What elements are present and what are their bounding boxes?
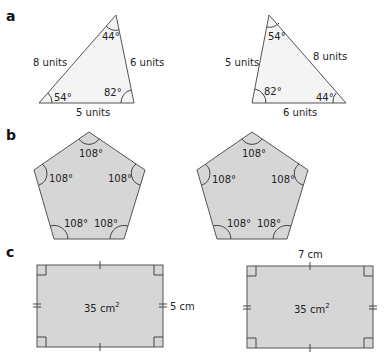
pentagon-left: 108° 108° 108° 108° 108° <box>34 132 145 239</box>
part-c-label: c <box>6 244 14 260</box>
part-b-label: b <box>6 127 16 143</box>
angle-label: 108° <box>212 174 236 185</box>
angle-label: 82° <box>104 87 122 98</box>
side-label: 7 cm <box>298 249 323 260</box>
angle-label: 108° <box>271 174 295 185</box>
angle-label: 54° <box>268 31 286 42</box>
part-a-label: a <box>6 8 15 24</box>
angle-label: 44° <box>316 92 334 103</box>
side-label: 6 units <box>130 57 164 68</box>
angle-label: 108° <box>108 173 132 184</box>
pentagon-right: 108° 108° 108° 108° 108° <box>197 132 308 239</box>
side-label: 5 units <box>76 107 110 118</box>
area-label: 35 cm2 <box>84 301 120 314</box>
angle-label: 108° <box>227 218 251 229</box>
rectangle-right: 35 cm2 7 cm <box>243 249 377 352</box>
rectangle-left: 35 cm2 5 cm <box>33 261 195 351</box>
angle-label: 108° <box>242 148 266 159</box>
angle-label: 82° <box>264 86 282 97</box>
angle-label: 54° <box>54 92 72 103</box>
triangle-left: 44° 54° 82° 8 units 6 units 5 units <box>33 15 164 118</box>
triangle-right: 54° 82° 44° 5 units 8 units 6 units <box>225 15 347 118</box>
side-label: 8 units <box>33 57 67 68</box>
area-label: 35 cm2 <box>294 302 330 315</box>
angle-label: 108° <box>94 218 118 229</box>
side-label: 5 units <box>225 57 259 68</box>
angle-label: 44° <box>102 31 120 42</box>
side-label: 6 units <box>283 107 317 118</box>
angle-label: 108° <box>64 218 88 229</box>
side-label: 5 cm <box>170 301 195 312</box>
side-label: 8 units <box>313 51 347 62</box>
angle-label: 108° <box>49 173 73 184</box>
figure-canvas: a 44° 54° 82° 8 units 6 units 5 units 54… <box>0 0 389 363</box>
angle-label: 108° <box>79 148 103 159</box>
angle-label: 108° <box>257 218 281 229</box>
